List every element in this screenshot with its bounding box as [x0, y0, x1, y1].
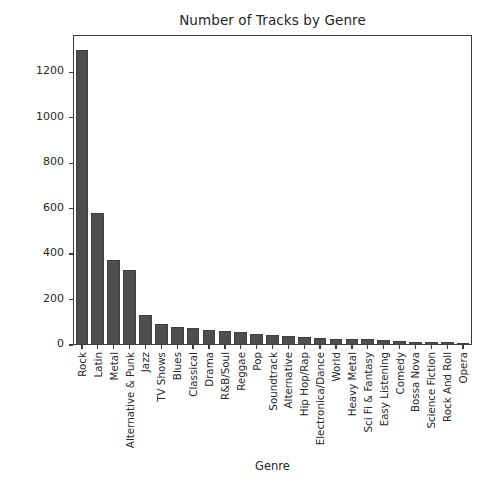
y-axis-tick-mark: [69, 72, 73, 73]
y-axis-tick-mark: [69, 253, 73, 254]
x-axis-tick-label: Opera: [463, 320, 475, 352]
x-axis-tick-label: Pop: [257, 333, 269, 352]
x-axis-tick-label: Drama: [209, 317, 221, 352]
x-axis-tick-label: Reggae: [241, 313, 253, 352]
x-axis-tick-label: Science Fiction: [431, 275, 443, 352]
x-axis-tick-label: Easy Listening: [384, 278, 396, 352]
y-axis-tick-mark: [69, 117, 73, 118]
bar: [76, 50, 89, 345]
y-axis-tick-label: 800: [43, 155, 64, 168]
x-axis-tick-label: Rock And Roll: [447, 282, 459, 352]
x-axis-tick-label: Sci Fi & Fantasy: [368, 271, 380, 352]
y-axis-tick-label: 0: [57, 337, 64, 350]
chart-title: Number of Tracks by Genre: [73, 12, 472, 28]
y-axis-tick-label: 1200: [36, 64, 64, 77]
y-axis-tick-label: 400: [43, 246, 64, 259]
y-axis-tick-mark: [69, 344, 73, 345]
y-axis-tick-mark: [69, 299, 73, 300]
y-axis-tick-mark: [69, 208, 73, 209]
x-axis-tick-label: Metal: [114, 324, 126, 352]
x-axis-tick-label: R&B/Soul: [225, 304, 237, 352]
x-axis-tick-label: Alternative & Punk: [130, 256, 142, 352]
y-axis-tick-label: 200: [43, 292, 64, 305]
x-axis-tick-label: Comedy: [400, 310, 412, 353]
figure-canvas: · · Number of Tracks by Genre Tracks Gen…: [0, 0, 499, 499]
x-axis-tick-label: Hip Hop/Rap: [304, 288, 316, 352]
y-axis-tick-label: 1000: [36, 110, 64, 123]
cropped-text-artifact: · ·: [148, 0, 268, 5]
y-axis-tick-label: 600: [43, 201, 64, 214]
bar: [91, 213, 104, 345]
y-axis-tick-mark: [69, 163, 73, 164]
x-axis-tick-label: Alternative: [288, 296, 300, 353]
x-axis-tick-label: Latin: [98, 327, 110, 352]
x-axis-tick-label: Electronica/Dance: [320, 259, 332, 352]
x-axis-tick-label: Bossa Nova: [415, 292, 427, 352]
x-axis-tick-label: Rock: [82, 327, 94, 352]
x-axis-tick-label: Blues: [177, 324, 189, 352]
x-axis-tick-label: World: [336, 322, 348, 352]
x-axis-tick-label: Heavy Metal: [352, 288, 364, 352]
x-axis-tick-label: Jazz: [145, 332, 157, 352]
x-axis-tick-label: Classical: [193, 307, 205, 352]
x-axis-label: Genre: [73, 459, 472, 473]
x-axis-tick-label: TV Shows: [161, 302, 173, 352]
x-axis-tick-label: Soundtrack: [273, 293, 285, 352]
